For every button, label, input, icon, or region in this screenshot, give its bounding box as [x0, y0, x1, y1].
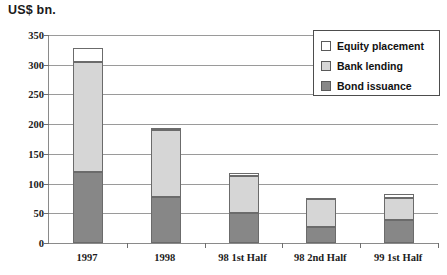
x-tick-0	[127, 243, 128, 248]
x-axis-label-0: 1997	[76, 252, 97, 263]
x-tick-1	[205, 243, 206, 248]
y-tick-0	[44, 243, 49, 244]
y-tick-100	[44, 184, 49, 185]
bar-segment-equity	[151, 128, 181, 130]
bar-segment-bank	[151, 130, 181, 197]
y-tick-350	[44, 35, 49, 36]
legend-label: Bond issuance	[337, 81, 412, 92]
y-tick-label-200: 200	[28, 119, 44, 130]
legend-item[interactable]: Equity placement	[321, 36, 439, 56]
x-tick-4	[438, 243, 439, 248]
bar-segment-bank	[306, 199, 336, 227]
legend-swatch-equity	[321, 41, 331, 51]
bar-segment-bond	[151, 197, 181, 243]
x-axis-label-2: 98 1st Half	[218, 252, 266, 263]
y-tick-200	[44, 124, 49, 125]
y-tick-250	[44, 94, 49, 95]
legend-item[interactable]: Bank lending	[321, 56, 439, 76]
y-tick-150	[44, 154, 49, 155]
x-axis-label-1: 1998	[154, 252, 175, 263]
bar-1997	[73, 35, 103, 243]
y-tick-label-350: 350	[28, 30, 44, 41]
bar-segment-bond	[229, 213, 259, 243]
bar-segment-bond	[384, 220, 414, 243]
y-axis-labels: 050100150200250300350	[0, 35, 44, 243]
bar-segment-equity	[73, 48, 103, 62]
chart-legend: Equity placementBank lendingBond issuanc…	[313, 30, 440, 96]
legend-label: Equity placement	[337, 41, 424, 52]
y-tick-300	[44, 65, 49, 66]
bar-segment-equity	[229, 173, 259, 175]
y-tick-label-50: 50	[34, 208, 45, 219]
bar-98-1st-half	[229, 35, 259, 243]
y-tick-label-300: 300	[28, 59, 44, 70]
x-axis-label-3: 98 2nd Half	[294, 252, 347, 263]
bar-segment-bank	[73, 62, 103, 172]
chart-figure: US$ bn. 050100150200250300350 Equity pla…	[0, 0, 447, 275]
bar-segment-bank	[229, 176, 259, 213]
chart-title: US$ bn.	[8, 3, 56, 17]
y-tick-label-150: 150	[28, 148, 44, 159]
bar-segment-bond	[73, 172, 103, 243]
legend-label: Bank lending	[337, 61, 403, 72]
bar-segment-bond	[306, 227, 336, 243]
x-tick-2	[282, 243, 283, 248]
y-tick-50	[44, 213, 49, 214]
legend-swatch-bank	[321, 61, 331, 71]
bar-1998	[151, 35, 181, 243]
bar-segment-equity	[306, 198, 336, 200]
y-tick-label-250: 250	[28, 89, 44, 100]
y-tick-label-100: 100	[28, 178, 44, 189]
x-tick-3	[360, 243, 361, 248]
legend-item[interactable]: Bond issuance	[321, 76, 439, 96]
legend-swatch-bond	[321, 81, 331, 91]
bar-segment-equity	[384, 194, 414, 198]
x-axis-label-4: 99 1st Half	[374, 252, 422, 263]
bar-segment-bank	[384, 198, 414, 221]
